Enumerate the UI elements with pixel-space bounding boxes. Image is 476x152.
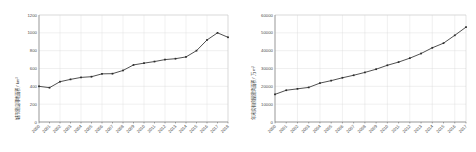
left-chart-xtick-label: 2013 — [167, 123, 178, 134]
right-chart-xtick-label: 2015 — [435, 123, 446, 134]
left-chart-data-point — [91, 76, 93, 78]
left-chart-yaxis-ticklabels: 020040060080010001200 — [27, 13, 37, 125]
right-chart-xtick-label: 2000 — [267, 123, 278, 134]
left-chart-xtick-label: 2008 — [115, 123, 126, 134]
right-chart-xtick-label: 2010 — [379, 123, 390, 134]
left-chart-xtick-label: 2002 — [52, 123, 63, 134]
left-chart-xtick-label: 2010 — [136, 123, 147, 134]
left-chart-xtick-label: 2009 — [125, 123, 136, 134]
left-chart-xtick-label: 2014 — [178, 123, 189, 134]
left-chart-frame — [39, 15, 228, 123]
left-chart-data-point — [175, 58, 177, 60]
right-chart-data-point — [353, 74, 355, 76]
right-chart-frame — [275, 15, 466, 123]
left-chart-data-point — [133, 64, 135, 66]
right-chart-dataline — [275, 27, 466, 94]
left-chart-ytick-label: 1200 — [27, 13, 37, 18]
left-chart-dataline — [39, 33, 228, 88]
right-chart-xtick-label: 2013 — [413, 123, 424, 134]
right-chart-data-point — [375, 68, 377, 70]
right-chart-data-point — [443, 42, 445, 44]
left-chart-data-point — [227, 36, 229, 38]
left-chart-data-point — [59, 81, 61, 83]
right-chart-data-point — [308, 87, 310, 89]
right-chart-markers — [274, 26, 467, 95]
left-chart-data-point — [49, 87, 51, 89]
left-chart-data-point — [185, 56, 187, 58]
left-chart-data-point — [80, 77, 82, 79]
left-chart-xtick-label: 2015 — [188, 123, 199, 134]
right-chart-xtick-label: 2011 — [390, 123, 401, 134]
left-chart-ytick-label: 200 — [30, 102, 38, 107]
right-chart-xtick-label: 2004 — [312, 123, 323, 134]
chart-svg-right: 0100002000030000400005000060000 20002001… — [238, 0, 476, 152]
left-chart-xtick-label: 2016 — [199, 123, 210, 134]
left-chart-xaxis-ticklabels: 2000200120022003200420052006200720082009… — [31, 123, 231, 134]
right-chart-data-point — [465, 26, 467, 28]
right-chart-yaxis-ticklabels: 0100002000030000400005000060000 — [261, 13, 274, 125]
left-chart-data-point — [206, 39, 208, 41]
right-chart-xtick-label: 2002 — [289, 123, 300, 134]
left-chart-xtick-label: 2007 — [104, 123, 115, 134]
left-chart-xtick-label: 2001 — [41, 123, 52, 134]
left-chart-data-point — [217, 32, 219, 34]
left-chart-ytick-label: 800 — [30, 48, 38, 53]
right-chart-xaxis-ticklabels: 2000200120022003200420052006200720082009… — [267, 123, 469, 134]
right-chart-ytick-label: 10000 — [261, 102, 274, 107]
right-chart-xtick-label: 2007 — [345, 123, 356, 134]
left-chart-yaxis-title: 城市建设用地面积 / km² — [14, 76, 21, 120]
right-chart-data-point — [330, 80, 332, 82]
right-chart-yaxis-title: 年末实有房屋建筑面积 / 万 m² — [250, 65, 257, 120]
right-chart-data-point — [297, 88, 299, 90]
left-chart-xtick-label: 2011 — [146, 123, 157, 134]
chart-panel-annual-housing-completed-floor-area: 0100002000030000400005000060000 20002001… — [238, 0, 476, 152]
left-chart-xtick-label: 2003 — [62, 123, 73, 134]
left-chart-grid — [39, 15, 228, 122]
left-chart-xtick-label: 2004 — [73, 123, 84, 134]
right-chart-xtick-label: 2016 — [446, 123, 457, 134]
left-chart-data-point — [38, 85, 40, 87]
figure-container: 020040060080010001200 200020012002200320… — [0, 0, 476, 152]
right-chart-xtick-label: 2017 — [458, 123, 469, 134]
right-chart-ytick-label: 40000 — [261, 48, 274, 53]
left-chart-data-point — [154, 61, 156, 63]
right-chart-xtick-label: 2012 — [401, 123, 412, 134]
left-chart-ytick-label: 400 — [30, 84, 38, 89]
left-chart-data-point — [70, 79, 72, 81]
right-chart-xtick-label: 2001 — [278, 123, 289, 134]
right-chart-data-point — [285, 89, 287, 91]
right-chart-data-point — [319, 82, 321, 84]
left-chart-data-point — [101, 73, 103, 75]
right-chart-data-point — [342, 77, 344, 79]
right-chart-ytick-label: 30000 — [261, 66, 274, 71]
left-chart-data-point — [164, 59, 166, 61]
left-chart-xtick-label: 2017 — [209, 123, 220, 134]
right-chart-data-point — [420, 53, 422, 55]
right-chart-data-point — [274, 94, 276, 96]
chart-svg-left: 020040060080010001200 200020012002200320… — [0, 0, 238, 152]
right-chart-data-point — [364, 72, 366, 74]
right-chart-data-point — [398, 61, 400, 63]
left-chart-xtick-label: 2005 — [83, 123, 94, 134]
left-chart-ytick-label: 1000 — [27, 30, 37, 35]
left-chart-xtick-label: 2006 — [94, 123, 105, 134]
right-chart-data-point — [387, 64, 389, 66]
left-chart-data-point — [112, 73, 114, 75]
right-chart-data-point — [431, 47, 433, 49]
right-chart-xtick-label: 2008 — [356, 123, 367, 134]
left-chart-ytick-label: 600 — [30, 66, 38, 71]
left-chart-xtick-label: 2018 — [220, 123, 231, 134]
left-chart-data-point — [196, 50, 198, 52]
right-chart-ytick-label: 60000 — [261, 13, 274, 18]
left-chart-xtick-label: 2012 — [157, 123, 168, 134]
right-chart-xtick-label: 2014 — [424, 123, 435, 134]
left-chart-data-point — [143, 62, 145, 64]
right-chart-xtick-label: 2003 — [300, 123, 311, 134]
right-chart-data-point — [454, 34, 456, 36]
left-chart-data-point — [122, 70, 124, 72]
right-chart-ytick-label: 50000 — [261, 30, 274, 35]
right-chart-xtick-label: 2006 — [334, 123, 345, 134]
right-chart-grid — [275, 15, 466, 122]
chart-panel-urban-construction-land-area: 020040060080010001200 200020012002200320… — [0, 0, 238, 152]
right-chart-ytick-label: 20000 — [261, 84, 274, 89]
